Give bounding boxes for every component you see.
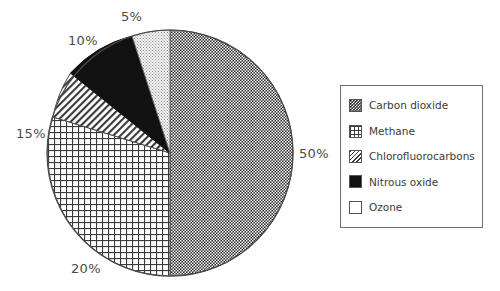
legend-item-nitrous-oxide[interactable]: Nitrous oxide	[349, 173, 476, 191]
legend-label-chlorofluorocarbons: Chlorofluorocarbons	[369, 151, 475, 162]
legend-label-methane: Methane	[369, 126, 415, 137]
pie-slice-carbon-dioxide[interactable]	[170, 30, 293, 276]
legend-swatch-ozone-icon	[349, 201, 362, 214]
legend-label-nitrous-oxide: Nitrous oxide	[369, 177, 438, 188]
slice-label-carbon-dioxide: 50%	[299, 147, 329, 160]
slice-label-methane: 20%	[71, 262, 101, 275]
slice-label-chlorofluorocarbons: 15%	[16, 127, 46, 140]
legend-swatch-chlorofluorocarbons-icon	[349, 150, 362, 163]
pie-chart-figure: 50% 20% 15% 10% 5% Carbon dioxide Methan…	[0, 0, 500, 291]
legend-item-methane[interactable]: Methane	[349, 122, 476, 140]
legend-label-carbon-dioxide: Carbon dioxide	[369, 100, 448, 111]
legend-swatch-carbon-dioxide-icon	[349, 99, 362, 112]
legend-item-chlorofluorocarbons[interactable]: Chlorofluorocarbons	[349, 147, 476, 165]
legend-swatch-nitrous-oxide-icon	[349, 175, 362, 188]
chart-legend: Carbon dioxide Methane Chlorofluorocarbo…	[340, 85, 483, 228]
legend-item-carbon-dioxide[interactable]: Carbon dioxide	[349, 97, 476, 115]
legend-item-ozone[interactable]: Ozone	[349, 198, 476, 216]
slice-label-nitrous-oxide: 10%	[68, 34, 98, 47]
legend-label-ozone: Ozone	[369, 202, 402, 213]
slice-label-ozone: 5%	[121, 10, 142, 23]
legend-swatch-methane-icon	[349, 125, 362, 138]
